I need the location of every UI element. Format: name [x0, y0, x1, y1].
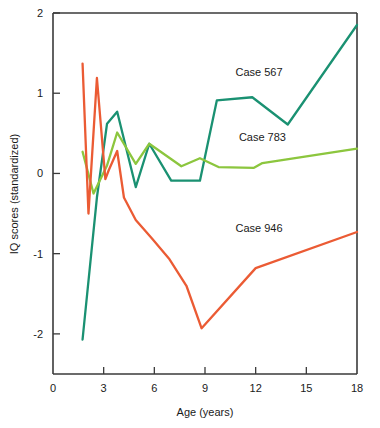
- series-line-case-567: [83, 25, 357, 339]
- series-label-case-567: Case 567: [235, 66, 282, 78]
- x-tick-label-0: 0: [50, 382, 56, 394]
- chart-series-labels: Case 567Case 783Case 946: [235, 66, 285, 234]
- x-tick-label-12: 12: [250, 382, 262, 394]
- y-tick-label-2: 2: [37, 7, 43, 19]
- line-chart-svg: -2-10120369121518 Case 567Case 783Case 9…: [0, 0, 380, 428]
- series-label-case-946: Case 946: [235, 222, 282, 234]
- y-tick-label-1: 1: [37, 87, 43, 99]
- x-tick-label-9: 9: [202, 382, 208, 394]
- x-tick-label-15: 15: [300, 382, 312, 394]
- x-axis-title: Age (years): [177, 406, 234, 418]
- y-tick-label--2: -2: [33, 328, 43, 340]
- y-tick-label--1: -1: [33, 248, 43, 260]
- chart-figure: -2-10120369121518 Case 567Case 783Case 9…: [0, 0, 380, 428]
- series-line-case-946: [83, 64, 357, 329]
- chart-series-lines: [83, 25, 357, 339]
- y-tick-label-0: 0: [37, 167, 43, 179]
- series-line-case-783: [83, 133, 357, 194]
- series-label-case-783: Case 783: [239, 131, 286, 143]
- x-tick-label-6: 6: [151, 382, 157, 394]
- x-tick-label-18: 18: [351, 382, 363, 394]
- x-tick-label-3: 3: [101, 382, 107, 394]
- y-axis-title: IQ scores (standardized): [8, 134, 20, 254]
